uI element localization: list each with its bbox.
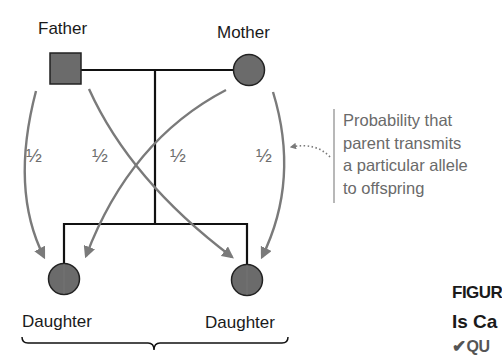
arrow-father-to-left-daughter (25, 91, 44, 257)
callout-line-1: Probability that (343, 109, 468, 132)
figure-question-text: QU (467, 338, 490, 355)
callout-line-2: parent transmits (343, 132, 468, 155)
arrow-mother-to-right-daughter (262, 92, 284, 257)
offspring-brace (22, 337, 288, 350)
arrow-father-to-right-daughter (89, 89, 232, 257)
mother-circle-symbol (234, 55, 265, 86)
probability-father-left: ½ (26, 146, 42, 165)
probability-mother-right: ½ (256, 146, 272, 165)
figure-question-marker: ✔QU (452, 338, 490, 355)
checkmark-icon: ✔ (452, 337, 466, 355)
callout-line-3: a particular allele (343, 154, 468, 177)
father-square-symbol (50, 53, 81, 84)
probability-mother-left: ½ (170, 146, 186, 165)
figure-label: FIGUR (452, 284, 502, 301)
callout-dotted-pointer (291, 146, 330, 157)
father-label: Father (38, 20, 87, 37)
mother-label: Mother (217, 24, 270, 41)
probability-father-right: ½ (92, 146, 108, 165)
callout-line-4: to offspring (343, 177, 468, 200)
daughter-left-label: Daughter (22, 313, 92, 330)
callout-box: Probability that parent transmits a part… (333, 109, 468, 203)
daughter-right-label: Daughter (205, 314, 275, 331)
figure-title: Is Ca (452, 312, 497, 331)
